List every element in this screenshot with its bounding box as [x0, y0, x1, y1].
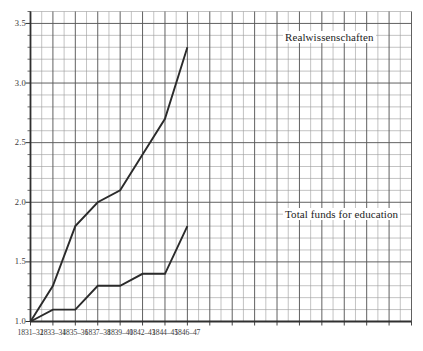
y-axis-tick-label: 3.5 [0, 18, 26, 28]
y-axis-tick-label: 1.5 [0, 256, 26, 266]
x-axis-tick-label: 1846–47 [164, 328, 210, 337]
series-label-total-funds: Total funds for education [283, 208, 400, 220]
y-axis-tick-label: 3.0 [0, 78, 26, 88]
chart-plot-svg [0, 0, 423, 351]
series-label-realwissenschaften: Realwissenschaften [283, 31, 376, 43]
y-axis-tick-label: 1.0 [0, 316, 26, 326]
axis-ticks [26, 12, 412, 326]
chart-container: 3.53.02.52.01.51.0 1831–321833–341835–36… [0, 0, 423, 351]
y-axis-tick-label: 2.5 [0, 137, 26, 147]
y-axis-tick-label: 2.0 [0, 197, 26, 207]
